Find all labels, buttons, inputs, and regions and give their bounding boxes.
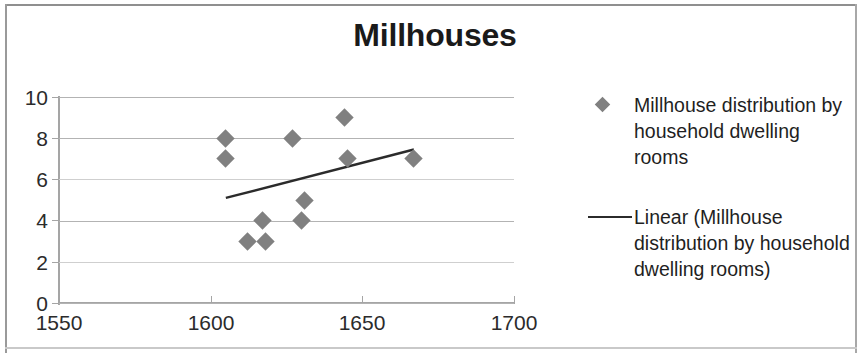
x-tick-label-1550: 1550 <box>14 312 104 333</box>
diamond-marker-icon <box>595 97 611 113</box>
figure-bottom-border <box>5 347 857 349</box>
trendline <box>59 97 514 303</box>
legend-label-millhouse-distribution: Millhouse distribution by household dwel… <box>634 92 856 170</box>
plot-area <box>59 97 514 303</box>
y-tick-label-6: 6 <box>4 169 48 190</box>
x-tick-label-1700: 1700 <box>469 312 559 333</box>
figure-top-border <box>5 4 857 6</box>
legend-entry-millhouse-distribution[interactable]: Millhouse distribution by household dwel… <box>588 92 856 170</box>
chart-figure: Millhouses 10 8 6 4 2 0 1550 1600 1650 1… <box>0 0 865 353</box>
x-tick-1700 <box>514 296 515 304</box>
y-tick-label-2: 2 <box>4 252 48 273</box>
legend-entry-linear-trendline[interactable]: Linear (Millhouse distribution by househ… <box>588 204 856 282</box>
legend-label-linear-trendline: Linear (Millhouse distribution by househ… <box>634 204 856 282</box>
legend-key-linear <box>588 204 634 230</box>
gridline-0 <box>59 303 514 304</box>
chart-title: Millhouses <box>200 17 670 54</box>
y-tick-label-10: 10 <box>4 87 48 108</box>
x-tick-label-1600: 1600 <box>166 312 256 333</box>
y-tick-label-4: 4 <box>4 210 48 231</box>
trendline-segment <box>226 150 414 198</box>
chart-legend: Millhouse distribution by household dwel… <box>588 92 856 282</box>
x-tick-label-1650: 1650 <box>317 312 407 333</box>
y-axis-labels: 10 8 6 4 2 0 <box>0 0 48 353</box>
legend-key-scatter <box>588 92 634 118</box>
y-tick-label-8: 8 <box>4 128 48 149</box>
line-swatch-icon <box>588 216 632 218</box>
